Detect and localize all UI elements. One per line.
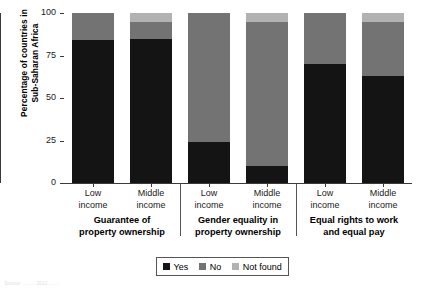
group-separator-1 — [180, 184, 181, 236]
bar-segment-not-found — [362, 13, 404, 22]
bar-segment-no — [304, 13, 346, 64]
bar-segment-yes — [246, 166, 288, 183]
y-tick-0: 0 — [60, 183, 64, 184]
y-tick-100: 100 — [60, 13, 64, 14]
bar-segment-not-found — [130, 13, 172, 22]
y-tick-label-0: 0 — [51, 177, 56, 187]
bar-segment-yes — [130, 39, 172, 184]
x-tick-3 — [209, 183, 210, 187]
bar-segment-no — [246, 22, 288, 167]
group-separator-2 — [296, 184, 297, 236]
y-tick-label-75: 75 — [46, 50, 56, 60]
bar-2-1[interactable] — [188, 13, 230, 183]
bar-3-1[interactable] — [304, 13, 346, 183]
legend-label-not-found: Not found — [243, 262, 282, 272]
legend-item-no[interactable]: No — [199, 262, 221, 272]
y-axis-title: Percentage of countries in Sub-Saharan A… — [19, 0, 41, 153]
y-tick-label-25: 25 — [46, 135, 56, 145]
legend-swatch-yes — [163, 263, 170, 270]
x-tick-1 — [93, 183, 94, 187]
bar-1-2[interactable] — [130, 13, 172, 183]
bar-segment-yes — [362, 76, 404, 183]
x-tick-6 — [383, 183, 384, 187]
bar-segment-no — [362, 22, 404, 76]
legend-item-yes[interactable]: Yes — [163, 262, 188, 272]
bar-segment-no — [130, 22, 172, 39]
y-tick-75: 75 — [60, 56, 64, 57]
x-tick-4 — [267, 183, 268, 187]
y-tick-25: 25 — [60, 141, 64, 142]
bar-segment-not-found — [246, 13, 288, 22]
bar-segment-no — [72, 13, 114, 40]
x-tick-label-6: Middle income — [343, 188, 423, 211]
bar-segment-yes — [304, 64, 346, 183]
bar-segment-no — [188, 13, 230, 142]
x-axis-line — [64, 183, 412, 184]
legend-item-not-found[interactable]: Not found — [232, 262, 282, 272]
bar-segment-yes — [188, 142, 230, 183]
source-note: Source: ......... 2012, ...... — [4, 280, 59, 286]
bar-segment-yes — [72, 40, 114, 183]
legend: Yes No Not found — [156, 257, 289, 276]
y-tick-50: 50 — [60, 98, 64, 99]
x-tick-2 — [151, 183, 152, 187]
y-tick-label-50: 50 — [46, 92, 56, 102]
legend-label-yes: Yes — [174, 262, 189, 272]
x-tick-5 — [325, 183, 326, 187]
group-label-3: Equal rights to work and equal pay — [284, 215, 424, 238]
legend-swatch-not-found — [232, 263, 239, 270]
bar-1-1[interactable] — [72, 13, 114, 183]
y-tick-label-100: 100 — [41, 7, 56, 17]
stacked-bar-chart: Percentage of countries in Sub-Saharan A… — [0, 0, 427, 290]
legend-label-no: No — [210, 262, 222, 272]
bar-3-2[interactable] — [362, 13, 404, 183]
y-axis-line — [0, 13, 1, 183]
legend-swatch-no — [199, 263, 206, 270]
bar-2-2[interactable] — [246, 13, 288, 183]
plot-area: 0255075100 — [64, 13, 412, 183]
